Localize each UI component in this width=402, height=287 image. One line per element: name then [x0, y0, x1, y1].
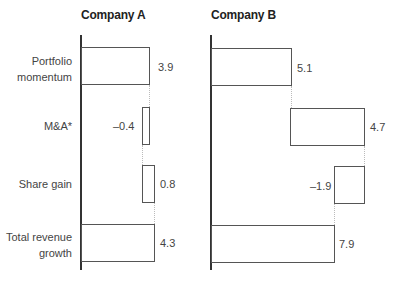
label-line: momentum	[0, 69, 72, 85]
chart-title: Company B	[211, 8, 276, 22]
label-line: M&A*	[0, 118, 72, 134]
category-label-total-revenue-growth: Total revenue growth	[0, 229, 72, 261]
category-label-portfolio-momentum: Portfolio momentum	[0, 53, 72, 85]
connector	[149, 85, 150, 107]
connector	[364, 146, 365, 166]
connector	[291, 86, 292, 108]
value-label: 5.1	[297, 61, 312, 75]
bar-share-gain	[142, 165, 155, 203]
connector	[154, 203, 155, 224]
category-label-share-gain: Share gain	[0, 176, 72, 192]
bar-total-revenue-growth	[81, 224, 155, 262]
label-line: growth	[0, 245, 72, 261]
value-label: –1.9	[310, 179, 331, 193]
value-label: –0.4	[113, 119, 134, 133]
category-label-ma: M&A*	[0, 118, 72, 134]
bar-total-revenue-growth	[211, 225, 335, 263]
bar-portfolio-momentum	[211, 48, 292, 86]
label-line: Portfolio	[0, 53, 72, 69]
bar-share-gain	[334, 166, 365, 204]
label-line: Total revenue	[0, 229, 72, 245]
connector	[334, 204, 335, 225]
bar-ma	[142, 107, 150, 145]
label-line: Share gain	[0, 176, 72, 192]
value-label: 7.9	[339, 237, 354, 251]
value-label: 4.3	[160, 236, 175, 250]
bar-portfolio-momentum	[81, 47, 150, 85]
chart-title: Company A	[81, 8, 145, 22]
bar-ma	[290, 108, 365, 146]
value-label: 0.8	[160, 177, 175, 191]
value-label: 3.9	[158, 60, 173, 74]
connector	[142, 145, 143, 165]
value-label: 4.7	[370, 120, 385, 134]
